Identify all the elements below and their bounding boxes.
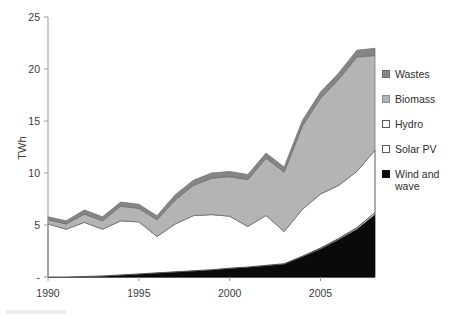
y-axis-ticks: 252015105-	[28, 11, 48, 283]
legend-swatch-biomass	[382, 95, 390, 103]
y-tick-label: -	[37, 271, 41, 283]
legend-label-solar-pv: Solar PV	[395, 143, 436, 155]
legend-item-solar-pv[interactable]: Solar PV	[382, 143, 456, 155]
y-tick-label: 10	[28, 167, 40, 179]
legend-swatch-hydro	[382, 120, 390, 128]
y-tick-label: 20	[28, 63, 40, 75]
legend-label-wastes: Wastes	[395, 68, 430, 80]
legend-label-wind-and-wave: Wind and wave	[395, 168, 439, 192]
y-tick-label: 15	[28, 115, 40, 127]
legend-label-hydro: Hydro	[395, 118, 423, 130]
x-axis-ticks: 1990199520002005	[36, 277, 332, 299]
y-tick-label: 25	[28, 11, 40, 23]
chart-legend: Wastes Biomass Hydro Solar PV Wind and w…	[382, 68, 456, 192]
legend-swatch-solar-pv	[382, 145, 390, 153]
legend-item-wastes[interactable]: Wastes	[382, 68, 456, 80]
legend-item-biomass[interactable]: Biomass	[382, 93, 456, 105]
x-tick-label: 2000	[218, 287, 242, 299]
x-tick-label: 2005	[309, 287, 333, 299]
x-tick-label: 1990	[36, 287, 60, 299]
legend-swatch-wastes	[382, 70, 390, 78]
chart-container: 252015105- 1990199520002005 TWh Wastes B…	[0, 0, 456, 319]
y-axis-title: TWh	[16, 136, 28, 159]
page-footer-artifact	[6, 310, 66, 314]
y-tick-label: 5	[34, 219, 40, 231]
legend-swatch-wind-and-wave	[382, 170, 390, 178]
legend-item-wind-and-wave[interactable]: Wind and wave	[382, 168, 456, 192]
x-tick-label: 1995	[127, 287, 151, 299]
legend-item-hydro[interactable]: Hydro	[382, 118, 456, 130]
legend-label-biomass: Biomass	[395, 93, 435, 105]
